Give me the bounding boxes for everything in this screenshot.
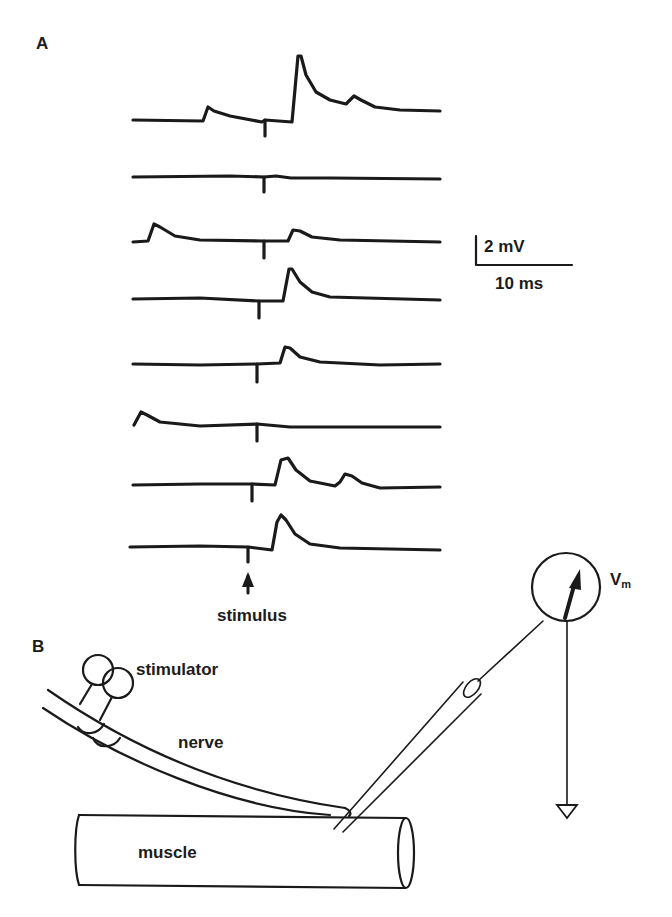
figure-drawing [0,0,672,917]
trace-7 [133,458,440,501]
trace-6 [134,412,440,441]
trace-1 [133,56,440,136]
recording-electrode [334,621,543,832]
nerve-label: nerve [178,733,223,753]
figure: A 2 mV 10 ms stimulus B stimulator nerve… [0,0,672,917]
stimulator-electrodes [78,655,133,746]
muscle-label: muscle [138,843,197,863]
voltmeter-label-main: V [610,570,621,589]
nerve [43,690,350,816]
trace-8 [130,515,440,562]
scale-bar-voltage-label: 2 mV [484,237,525,257]
trace-3 [133,224,440,258]
voltmeter-icon [532,553,600,818]
panel-b-label: B [32,637,44,657]
stimulator-label: stimulator [136,660,218,680]
trace-4 [133,269,440,318]
voltmeter-label: Vm [610,570,631,590]
panel-a-label: A [36,34,48,54]
stimulus-arrow-icon [242,572,254,593]
trace-2 [133,176,440,192]
scale-bar-time-label: 10 ms [495,274,543,294]
ground-icon [557,805,577,818]
stimulus-label: stimulus [217,606,287,626]
voltmeter-label-sub: m [621,578,631,590]
muscle [75,815,414,888]
trace-5 [133,347,440,382]
